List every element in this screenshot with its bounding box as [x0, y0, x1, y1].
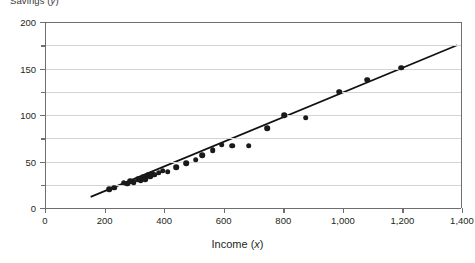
data-point: [219, 142, 225, 148]
gridline: [46, 138, 461, 139]
data-point: [229, 143, 235, 149]
scatterplot-figure: Savings (y) 050100150200 Income (x) 0200…: [0, 0, 475, 263]
y-axis-tick-label: 50: [0, 156, 36, 167]
gridline: [46, 208, 461, 209]
data-point: [183, 161, 189, 167]
data-point: [200, 152, 206, 158]
x-axis-tick: [283, 208, 284, 213]
gridline: [46, 115, 461, 116]
data-point: [399, 65, 405, 71]
data-point: [264, 125, 270, 131]
x-axis-tick-label: 200: [97, 215, 113, 226]
data-point: [364, 77, 370, 83]
data-point: [210, 148, 216, 154]
data-point: [303, 115, 309, 121]
x-axis-tick-label: 1,400: [450, 215, 474, 226]
gridline: [46, 92, 461, 93]
x-axis-tick-label: 1,000: [331, 215, 355, 226]
gridline: [46, 185, 461, 186]
x-axis-tick: [105, 208, 106, 213]
data-point: [111, 185, 117, 191]
x-axis-tick-label: 600: [216, 215, 232, 226]
x-axis-tick-label: 0: [42, 215, 47, 226]
x-axis-tick: [402, 208, 403, 213]
x-axis-tick-label: 1,200: [391, 215, 415, 226]
x-axis-tick-label: 800: [275, 215, 291, 226]
x-axis-tick: [462, 208, 463, 213]
x-axis-title: Income (x): [0, 238, 475, 250]
y-axis-tick-label: 150: [0, 63, 36, 74]
data-point: [281, 112, 287, 118]
gridline: [46, 45, 461, 46]
data-point: [193, 157, 199, 163]
x-axis-title-text: Income: [212, 238, 248, 250]
gridline: [46, 22, 461, 23]
x-axis-tick-label: 400: [156, 215, 172, 226]
x-axis-tick: [224, 208, 225, 213]
x-axis-tick: [45, 208, 46, 213]
y-axis-tick-label: 200: [0, 17, 36, 28]
data-point: [337, 89, 343, 95]
data-point: [173, 164, 179, 170]
x-axis-tick: [164, 208, 165, 213]
gridline: [46, 162, 461, 163]
y-axis-tick-label: 100: [0, 110, 36, 121]
data-point: [246, 143, 252, 149]
y-axis: 050100150200: [0, 0, 45, 263]
y-axis-tick-label: 0: [0, 203, 36, 214]
data-point: [165, 169, 171, 175]
x-axis-tick: [343, 208, 344, 213]
plot-area: [45, 22, 462, 208]
